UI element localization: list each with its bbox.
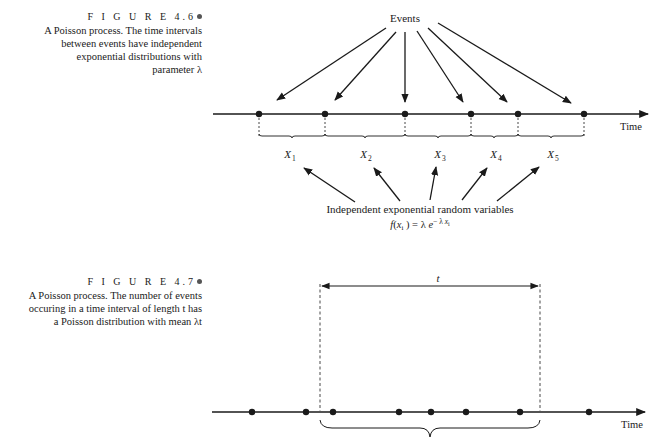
interval-dashes <box>259 118 584 136</box>
event-dot-icon <box>517 409 523 415</box>
event-dot-icon <box>249 409 255 415</box>
arrow-icon <box>497 167 539 201</box>
interval-label: X2 <box>359 148 372 163</box>
arrow-icon <box>438 23 571 103</box>
event-dot-icon <box>468 111 474 117</box>
interval-label: X3 <box>433 148 446 163</box>
arrow-icon <box>430 167 436 200</box>
density-formula: f(xi ) = λ e− λ xi <box>390 217 450 232</box>
event-dot-icon <box>586 409 592 415</box>
figure-4-6-diagram: Events Time <box>213 12 648 232</box>
time-axis-label: Time <box>621 419 643 430</box>
diagram-canvas: Events Time <box>0 0 660 448</box>
figure-4-7-diagram: t Time <box>212 272 645 437</box>
brace-icon <box>471 134 518 138</box>
time-axis-label: Time <box>620 121 642 132</box>
events-label: Events <box>390 12 420 24</box>
arrow-icon <box>428 28 507 102</box>
brace-icon <box>325 134 405 138</box>
event-dot-icon <box>428 409 434 415</box>
interval-label: X5 <box>546 148 559 163</box>
brace-icon <box>405 134 471 138</box>
arrow-icon <box>417 31 463 102</box>
event-dot-icon <box>581 111 587 117</box>
brace-icon <box>259 134 325 138</box>
brace-icon <box>320 420 540 437</box>
interval-bounds <box>320 284 540 411</box>
event-arrows <box>277 23 571 103</box>
event-dot-icon <box>322 111 328 117</box>
rv-label: Independent exponential random variables <box>326 203 513 215</box>
event-dot-icon <box>402 111 408 117</box>
event-dot-icon <box>303 409 309 415</box>
interval-braces <box>259 134 584 138</box>
interval-length-label: t <box>436 272 440 284</box>
event-dot-icon <box>396 409 402 415</box>
arrow-icon <box>304 168 355 202</box>
rv-arrows <box>304 167 539 202</box>
arrow-icon <box>374 168 400 201</box>
brace-icon <box>518 134 584 138</box>
event-dot-icon <box>330 409 336 415</box>
interval-label: X1 <box>283 148 296 163</box>
event-dot-icon <box>256 111 262 117</box>
interval-label: X4 <box>489 148 502 163</box>
arrow-icon <box>462 168 487 200</box>
interval-labels: X1 X2 X3 X4 X5 <box>283 148 559 163</box>
event-dot-icon <box>463 409 469 415</box>
event-dot-icon <box>515 111 521 117</box>
arrow-icon <box>277 28 386 100</box>
